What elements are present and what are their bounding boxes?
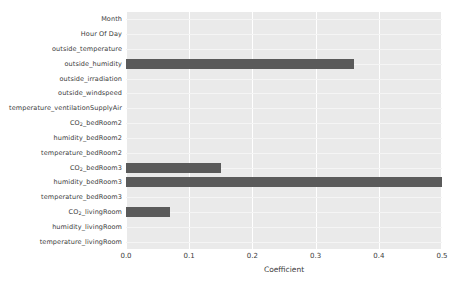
bar-row xyxy=(126,74,442,84)
y-axis-tick-label: CO2_livingRoom xyxy=(0,208,122,217)
bar xyxy=(126,163,221,173)
y-axis-tick-label: temperature_livingRoom xyxy=(0,238,122,246)
y-axis-tick-label: outside_temperature xyxy=(0,45,122,53)
y-axis-tick-label: humidity_bedRoom3 xyxy=(0,178,122,186)
bar-row xyxy=(126,222,442,232)
y-axis-tick-label: humidity_bedRoom2 xyxy=(0,134,122,142)
bar-row xyxy=(126,88,442,98)
bar-row xyxy=(126,237,442,247)
y-axis-tick-label: Hour Of Day xyxy=(0,30,122,38)
y-axis-tick-label: humidity_livingRoom xyxy=(0,223,122,231)
bar-row xyxy=(126,29,442,39)
y-axis-tick-label: temperature_bedRoom3 xyxy=(0,193,122,201)
y-axis-labels: MonthHour Of Dayoutside_temperatureoutsi… xyxy=(0,12,122,249)
y-axis-tick-label: temperature_ventilationSupplyAir xyxy=(0,104,122,112)
bar-row xyxy=(126,177,442,187)
y-axis-tick-label: CO2_bedRoom2 xyxy=(0,119,122,128)
bar xyxy=(126,207,170,217)
y-axis-tick-label: outside_irradiation xyxy=(0,75,122,83)
bar-row xyxy=(126,14,442,24)
coefficient-bar-chart: MonthHour Of Dayoutside_temperatureoutsi… xyxy=(0,0,458,282)
bar xyxy=(126,59,354,69)
bar-row xyxy=(126,118,442,128)
x-axis-tick-label: 0.2 xyxy=(247,252,258,260)
bar-row xyxy=(126,163,442,173)
y-axis-tick-label: outside_humidity xyxy=(0,60,122,68)
bar-row xyxy=(126,103,442,113)
bar-row xyxy=(126,207,442,217)
x-axis-tick-label: 0.4 xyxy=(373,252,384,260)
x-axis-tick-label: 0.0 xyxy=(120,252,131,260)
bar-row xyxy=(126,133,442,143)
x-axis-tick-label: 0.5 xyxy=(436,252,447,260)
bar xyxy=(126,177,442,187)
x-axis-tick-labels: 0.00.10.20.30.40.5 xyxy=(126,252,442,264)
plot-area xyxy=(126,12,442,249)
x-axis-tick-label: 0.3 xyxy=(310,252,321,260)
bar-row xyxy=(126,44,442,54)
x-axis-tick-label: 0.1 xyxy=(184,252,195,260)
bar-row xyxy=(126,148,442,158)
bar-row xyxy=(126,192,442,202)
bar-series xyxy=(126,12,442,249)
y-axis-tick-label: temperature_bedRoom2 xyxy=(0,149,122,157)
x-axis-title: Coefficient xyxy=(126,265,442,274)
y-axis-tick-label: Month xyxy=(0,15,122,23)
y-axis-tick-label: outside_windspeed xyxy=(0,89,122,97)
y-axis-tick-label: CO2_bedRoom3 xyxy=(0,164,122,173)
bar-row xyxy=(126,59,442,69)
